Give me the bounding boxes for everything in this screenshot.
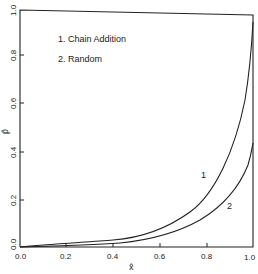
x-axis-label: x̂	[129, 262, 134, 272]
curve-random	[20, 143, 253, 247]
y-tick-label: 0.8	[9, 49, 18, 61]
chart: 0.0 0.2 0.4 0.6 0.8 1.0 0.0 0.2 0.4 0.6 …	[0, 0, 258, 274]
legend-item-random: 2. Random	[58, 54, 102, 64]
y-tick-label: 0.2	[9, 194, 18, 206]
y-tick-label: 0.0	[9, 238, 18, 250]
x-tick-label: 0.2	[60, 252, 72, 261]
x-tick-label: 0.8	[201, 252, 213, 261]
x-tick-label: 0.4	[107, 252, 119, 261]
curve-chain-addition	[20, 22, 253, 247]
y-tick-label: 0.4	[9, 146, 18, 158]
plot-frame	[20, 10, 253, 247]
x-tick-label: 1.0	[244, 253, 256, 262]
y-axis-label: p̂	[0, 129, 10, 134]
x-tick-label: 0.0	[15, 252, 27, 261]
y-ticks	[20, 55, 24, 200]
curve-label-2: 2	[227, 201, 232, 211]
curve-label-1: 1	[201, 170, 206, 180]
legend-item-chain-addition: 1. Chain Addition	[58, 34, 126, 44]
y-tick-label: 1.0	[9, 4, 18, 16]
y-tick-label: 0.6	[9, 97, 18, 109]
x-tick-label: 0.6	[154, 252, 166, 261]
